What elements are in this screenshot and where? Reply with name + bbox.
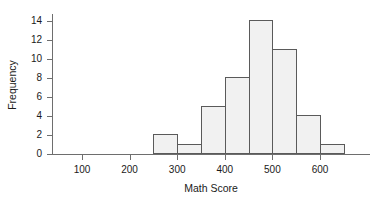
y-tick-label: 14 [0, 16, 42, 26]
x-tick-label: 100 [62, 165, 102, 175]
histogram-bar [201, 106, 226, 155]
histogram-bar [249, 20, 274, 154]
x-tick-mark [82, 155, 83, 160]
y-tick-label-text: 12 [0, 35, 42, 45]
x-tick-mark [272, 155, 273, 160]
y-tick-label: 8 [0, 73, 42, 83]
x-tick-label: 500 [252, 165, 292, 175]
x-axis-title: Math Score [52, 182, 370, 194]
y-tick-label: 6 [0, 92, 42, 102]
y-tick-label: 4 [0, 111, 42, 121]
y-tick-label: 10 [0, 54, 42, 64]
x-axis-line [52, 154, 370, 155]
y-tick-label-text: 2 [0, 130, 42, 140]
x-tick-mark [320, 155, 321, 160]
x-tick-label: 300 [157, 165, 197, 175]
histogram-bar [320, 144, 345, 155]
histogram-bar [225, 77, 250, 154]
y-axis-title-text: Frequency [6, 60, 18, 110]
histogram-bar [296, 115, 321, 154]
x-tick-mark [177, 155, 178, 160]
y-tick-mark [47, 154, 52, 155]
histogram-bar [272, 49, 297, 155]
histogram-bar [153, 134, 178, 154]
y-tick-label-text: 6 [0, 92, 42, 102]
histogram-chart: Frequency 02468101214 100200300400500600… [0, 0, 385, 204]
y-tick-label-text: 4 [0, 111, 42, 121]
y-tick-label-text: 14 [0, 16, 42, 26]
x-tick-mark [130, 155, 131, 160]
x-tick-label: 600 [300, 165, 340, 175]
histogram-bar [177, 144, 202, 155]
y-tick-label-text: 0 [0, 149, 42, 159]
y-tick-label: 0 [0, 149, 42, 159]
y-tick-label-text: 8 [0, 73, 42, 83]
y-tick-label: 2 [0, 130, 42, 140]
x-tick-mark [225, 155, 226, 160]
x-tick-label: 200 [110, 165, 150, 175]
plot-area [52, 14, 370, 154]
x-tick-label: 400 [205, 165, 245, 175]
y-tick-label: 12 [0, 35, 42, 45]
y-tick-label-text: 10 [0, 54, 42, 64]
